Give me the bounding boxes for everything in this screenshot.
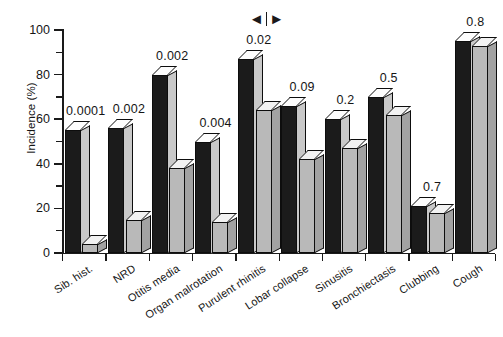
bar xyxy=(472,46,488,253)
y-axis-tick-label: 80 xyxy=(0,68,50,82)
bar xyxy=(281,106,297,253)
bar-front-face xyxy=(455,41,471,253)
y-axis-tick-label: 20 xyxy=(0,201,50,215)
bar-front-face xyxy=(82,244,98,253)
y-axis-tick xyxy=(54,208,63,210)
p-value-label: 0.004 xyxy=(199,116,231,130)
bar xyxy=(82,244,98,253)
x-axis-tick xyxy=(452,254,453,261)
bar-side-face xyxy=(402,110,411,253)
bar xyxy=(368,97,384,253)
bar xyxy=(65,130,81,253)
x-axis-tick xyxy=(322,254,323,261)
bar xyxy=(238,59,254,253)
bar-front-face xyxy=(342,148,358,253)
bar-side-face xyxy=(81,126,90,253)
x-axis-tick xyxy=(149,254,150,261)
p-value-label: 0.2 xyxy=(336,93,354,107)
bar xyxy=(212,222,228,253)
bar-side-face xyxy=(445,208,454,253)
significance-range-marker: ◄ ► xyxy=(249,11,284,26)
bar xyxy=(342,148,358,253)
p-value-label: 0.02 xyxy=(246,33,271,47)
x-axis-tick-label: Sib. hist. xyxy=(52,262,95,296)
bar xyxy=(455,41,471,253)
bar-front-face xyxy=(429,213,445,253)
x-axis-tick-label: NRD xyxy=(111,262,138,285)
p-value-label: 0.7 xyxy=(423,180,441,194)
x-axis-tick-label: Organ malrotation xyxy=(143,262,225,321)
bar xyxy=(256,110,272,253)
bar xyxy=(108,128,124,253)
y-axis-tick xyxy=(54,163,63,165)
bar xyxy=(195,142,211,254)
bar-front-face xyxy=(368,97,384,253)
bar xyxy=(299,159,315,253)
x-axis-tick-label: Clubbing xyxy=(397,262,441,296)
p-value-label: 0.8 xyxy=(466,15,484,29)
p-value-label: 0.002 xyxy=(156,49,188,63)
bar-front-face xyxy=(325,119,341,253)
bar xyxy=(152,75,168,253)
bar-front-face xyxy=(386,115,402,253)
p-value-label: 0.5 xyxy=(380,71,398,85)
bar-front-face xyxy=(169,168,185,253)
bar-side-face xyxy=(272,105,281,253)
bar-front-face xyxy=(238,59,254,253)
y-axis-tick-label: 60 xyxy=(0,112,50,126)
x-axis-tick-label: Cough xyxy=(450,262,484,290)
bar-side-face xyxy=(228,217,237,253)
x-axis-tick xyxy=(62,254,63,261)
bar xyxy=(126,220,142,253)
y-axis-tick-label: 0 xyxy=(0,246,50,260)
x-axis-tick xyxy=(105,254,106,261)
y-axis-tick xyxy=(54,74,63,76)
bar-front-face xyxy=(472,46,488,253)
bar xyxy=(429,213,445,253)
bar xyxy=(325,119,341,253)
y-axis-tick xyxy=(54,29,63,31)
bar-front-face xyxy=(126,220,142,253)
y-axis-tick xyxy=(56,96,63,98)
p-value-label: 0.0001 xyxy=(66,104,105,118)
x-axis-tick xyxy=(365,254,366,261)
bar-front-face xyxy=(152,75,168,253)
bar-front-face xyxy=(65,130,81,253)
y-axis-tick xyxy=(56,185,63,187)
bar-side-face xyxy=(142,215,151,253)
arrow-left-icon: ◄ xyxy=(249,11,264,26)
y-axis-tick xyxy=(54,118,63,120)
y-axis-tick-label: 40 xyxy=(0,157,50,171)
bar-chart: Incidence (%) 020406080100 Sib. hist.NRD… xyxy=(0,0,503,337)
bar-front-face xyxy=(411,206,427,253)
x-axis-tick xyxy=(495,254,496,261)
p-value-label: 0.09 xyxy=(290,80,315,94)
marker-divider xyxy=(266,12,267,26)
bar-front-face xyxy=(299,159,315,253)
y-axis-tick xyxy=(56,230,63,232)
bar-front-face xyxy=(281,106,297,253)
y-axis-tick xyxy=(56,52,63,54)
bar-side-face xyxy=(315,155,324,253)
x-axis-tick xyxy=(408,254,409,261)
bar-side-face xyxy=(185,163,194,253)
bar-side-face xyxy=(358,143,367,253)
x-axis-tick xyxy=(235,254,236,261)
bar xyxy=(411,206,427,253)
bar-front-face xyxy=(195,142,211,254)
y-axis-tick xyxy=(56,141,63,143)
bar-front-face xyxy=(108,128,124,253)
x-axis-tick xyxy=(192,254,193,261)
bar xyxy=(169,168,185,253)
bar-front-face xyxy=(212,222,228,253)
p-value-label: 0.002 xyxy=(113,102,145,116)
bar-side-face xyxy=(488,41,497,253)
bar xyxy=(386,115,402,253)
arrow-right-icon: ► xyxy=(269,11,284,26)
bar-front-face xyxy=(256,110,272,253)
y-axis-tick-label: 100 xyxy=(0,23,50,37)
x-axis-tick xyxy=(279,254,280,261)
